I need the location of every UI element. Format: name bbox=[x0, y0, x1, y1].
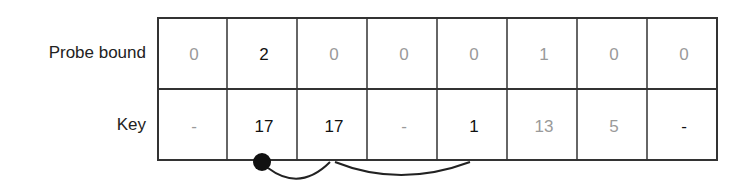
probe-arc-1 bbox=[268, 162, 330, 179]
probe-chain-arrows bbox=[0, 0, 738, 187]
probe-arc-2 bbox=[335, 162, 470, 175]
